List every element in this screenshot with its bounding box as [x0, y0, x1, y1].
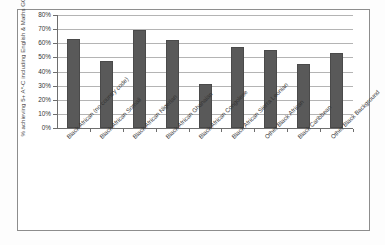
x-category-label: Black African (no country code) [65, 75, 130, 140]
x-tick-mark [353, 129, 354, 132]
y-tick-mark [53, 128, 57, 129]
x-tick-mark [287, 129, 288, 132]
y-tick-mark [53, 43, 57, 44]
x-category-label: Black African Sierra Leonian [230, 81, 289, 140]
x-tick-mark [189, 129, 190, 132]
y-tick-mark [53, 72, 57, 73]
y-tick-mark [53, 114, 57, 115]
x-category-label: Black Caribbean [296, 103, 333, 140]
y-tick-mark [53, 86, 57, 87]
x-tick-mark [156, 129, 157, 132]
x-category-label: Other Black Background [329, 88, 381, 140]
y-tick-mark [53, 15, 57, 16]
y-tick-mark [53, 100, 57, 101]
x-axis-category-labels: Black African (no country code)Black Afr… [0, 0, 385, 245]
x-tick-mark [90, 129, 91, 132]
x-tick-mark [123, 129, 124, 132]
x-tick-mark [221, 129, 222, 132]
y-tick-mark [53, 29, 57, 30]
x-tick-mark [254, 129, 255, 132]
chart-figure: % achieving 5+ A*-C including English & … [0, 0, 385, 245]
y-tick-mark [53, 57, 57, 58]
x-tick-mark [320, 129, 321, 132]
